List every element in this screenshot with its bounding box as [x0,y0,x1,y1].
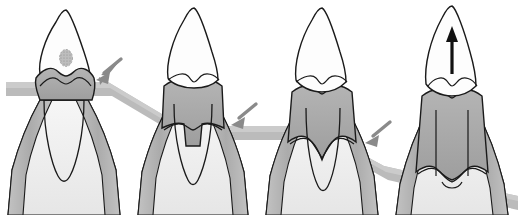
dentin-cervical-4 [416,90,488,180]
dental-eruption-figure: Tooth eruption and gingival recession se… [0,0,518,215]
enamel-lesion-spot [60,50,73,67]
figure-canvas [0,0,518,215]
